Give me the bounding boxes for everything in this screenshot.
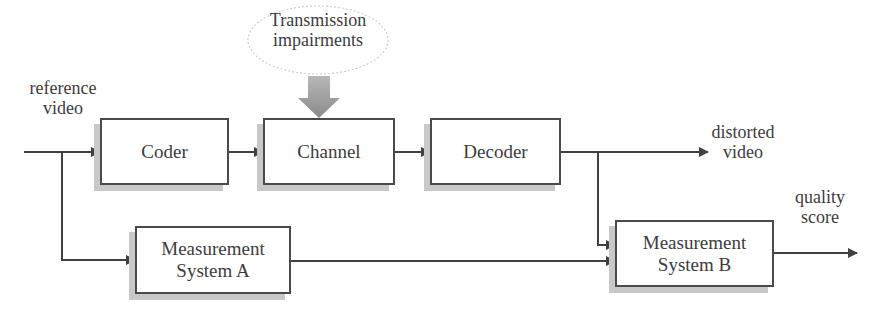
reference-video-label: reference video — [18, 78, 108, 118]
impairment-arrow-icon — [298, 76, 340, 118]
coder-block: Coder — [100, 118, 229, 185]
measurement-system-a-block: Measurement System A — [135, 226, 291, 294]
reference-video-line2: video — [18, 98, 108, 118]
edge-decoder-meas-b — [598, 152, 615, 245]
quality-score-line2: score — [785, 207, 855, 227]
reference-video-line1: reference — [18, 78, 108, 98]
decoder-block: Decoder — [430, 118, 561, 185]
distorted-video-line1: distorted — [703, 122, 783, 142]
quality-score-label: quality score — [785, 187, 855, 227]
meas-a-line2: System A — [176, 260, 249, 282]
channel-label: Channel — [297, 141, 360, 163]
distorted-video-label: distorted video — [703, 122, 783, 162]
decoder-label: Decoder — [463, 141, 527, 163]
measurement-system-b-block: Measurement System B — [615, 220, 774, 287]
impairment-label-line1: Transmission — [248, 10, 388, 30]
channel-block: Channel — [263, 118, 395, 185]
meas-b-line2: System B — [658, 254, 731, 276]
meas-b-line1: Measurement — [643, 232, 746, 254]
meas-a-line1: Measurement — [161, 238, 264, 260]
impairment-label-line2: impairments — [248, 30, 388, 50]
impairment-label: Transmission impairments — [248, 10, 388, 50]
quality-score-line1: quality — [785, 187, 855, 207]
coder-label: Coder — [141, 141, 187, 163]
distorted-video-line2: video — [703, 142, 783, 162]
